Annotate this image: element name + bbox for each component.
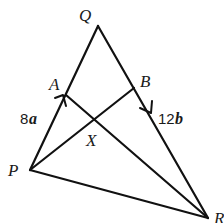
label-vector-br: 12 b xyxy=(158,110,183,127)
label-q: Q xyxy=(79,6,91,25)
vector-pa-coefficient: 8 xyxy=(20,110,28,127)
triangle-diagram: Q A B X P R 8 a 12 b xyxy=(0,0,224,223)
segment-qr xyxy=(98,26,208,218)
segment-pb xyxy=(30,88,134,170)
vector-br-coefficient: 12 xyxy=(158,110,175,127)
label-b: B xyxy=(140,72,151,91)
label-p: P xyxy=(7,161,18,180)
label-r: R xyxy=(213,209,224,223)
label-x: X xyxy=(85,131,97,150)
vector-pa-symbol: a xyxy=(29,110,37,127)
label-a: A xyxy=(48,75,60,94)
vector-br-symbol: b xyxy=(175,110,183,127)
label-vector-pa: 8 a xyxy=(20,110,37,127)
